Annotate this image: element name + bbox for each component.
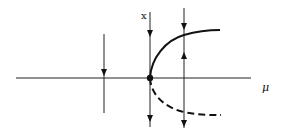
- flow-line-left: [101, 34, 107, 113]
- arrow-up-icon: [181, 52, 187, 59]
- arrow-down-icon: [101, 69, 107, 76]
- arrow-down-icon: [147, 30, 153, 37]
- bifurcation-point: [147, 75, 153, 81]
- stable-branch: [150, 30, 220, 78]
- bifurcation-diagram: x μ: [0, 0, 283, 137]
- arrow-down-icon: [181, 120, 187, 127]
- x-axis-label: x: [141, 10, 147, 21]
- flow-line-right: [181, 8, 187, 128]
- unstable-branch: [150, 78, 221, 115]
- mu-axis-label: μ: [262, 81, 269, 94]
- arrow-down-icon: [147, 115, 153, 122]
- arrow-down-icon: [181, 23, 187, 30]
